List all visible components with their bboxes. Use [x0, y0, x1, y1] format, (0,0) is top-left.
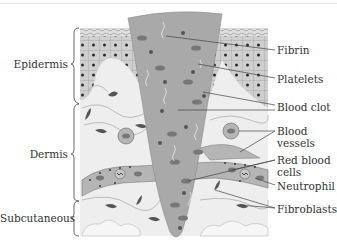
callout-blood-vessels-line2: vessels	[277, 137, 315, 149]
layer-label-subcutaneous: Subcutaneous	[0, 212, 68, 224]
callout-fibroblasts: Fibroblasts	[277, 203, 337, 215]
layer-label-dermis: Dermis	[10, 148, 68, 160]
callout-platelets: Platelets	[277, 73, 323, 85]
callout-neutrophil: Neutrophil	[277, 180, 335, 192]
layer-brackets	[71, 28, 79, 236]
callout-red-blood-cells-line2: cells	[277, 166, 301, 178]
callout-blood-vessels-line1: Blood	[277, 125, 307, 137]
layer-label-epidermis: Epidermis	[10, 58, 68, 70]
callout-fibrin: Fibrin	[277, 44, 310, 56]
callout-red-blood-cells-line1: Red blood	[277, 154, 331, 166]
callout-blood-clot: Blood clot	[277, 101, 331, 113]
